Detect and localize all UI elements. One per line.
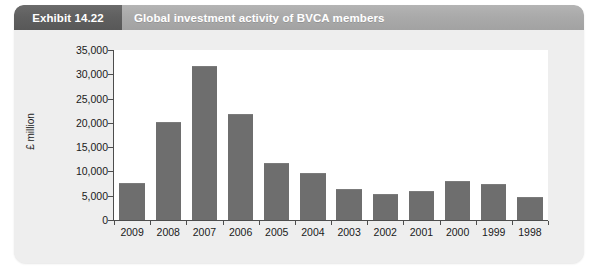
x-tick-label: 2001 (410, 226, 433, 238)
x-tick-mark (512, 221, 513, 225)
y-tick-mark (108, 50, 113, 51)
bar (264, 163, 289, 220)
bar (409, 191, 434, 220)
y-tick-label: 15,000 (76, 141, 108, 153)
y-axis-tick-labels: 05,00010,00015,00020,00025,00030,00035,0… (56, 50, 108, 220)
y-tick-label: 5,000 (82, 190, 108, 202)
exhibit-panel: Exhibit 14.22 Global investment activity… (14, 5, 584, 263)
x-axis-tick-labels: 2009200820072006200520042003200220012000… (114, 226, 548, 244)
x-tick-mark (223, 221, 224, 225)
x-tick-mark (403, 221, 404, 225)
x-tick-label: 2006 (229, 226, 252, 238)
exhibit-title: Global investment activity of BVCA membe… (122, 5, 584, 30)
x-tick-mark (150, 221, 151, 225)
x-tick-mark (331, 221, 332, 225)
chart-body: £ million 05,00010,00015,00020,00025,000… (14, 30, 584, 263)
x-tick-mark (476, 221, 477, 225)
y-axis-title: £ million (25, 96, 36, 168)
x-tick-mark (548, 221, 549, 225)
bar (228, 114, 253, 220)
x-tick-label: 2009 (120, 226, 143, 238)
bar (481, 184, 506, 220)
x-tick-mark (259, 221, 260, 225)
y-tick-label: 10,000 (76, 165, 108, 177)
exhibit-number-badge: Exhibit 14.22 (14, 5, 122, 30)
x-tick-label: 2000 (446, 226, 469, 238)
x-tick-label: 2003 (337, 226, 360, 238)
x-tick-label: 2005 (265, 226, 288, 238)
x-tick-label: 2008 (157, 226, 180, 238)
y-tick-mark (108, 74, 113, 75)
x-tick-label: 2002 (374, 226, 397, 238)
x-tick-label: 2004 (301, 226, 324, 238)
y-tick-mark (108, 196, 113, 197)
y-tick-label: 20,000 (76, 117, 108, 129)
x-tick-mark (295, 221, 296, 225)
y-tick-mark (108, 99, 113, 100)
bar (192, 66, 217, 220)
y-tick-mark (108, 171, 113, 172)
x-tick-mark (440, 221, 441, 225)
x-tick-mark (114, 221, 115, 225)
x-tick-label: 1999 (482, 226, 505, 238)
y-axis-line (113, 50, 114, 220)
bar (300, 173, 325, 220)
plot-area (114, 50, 548, 220)
x-tick-label: 1998 (518, 226, 541, 238)
bar (517, 197, 542, 220)
bar (336, 189, 361, 220)
bar (156, 122, 181, 220)
x-tick-mark (367, 221, 368, 225)
y-tick-label: 25,000 (76, 93, 108, 105)
x-tick-mark (186, 221, 187, 225)
y-tick-mark (108, 123, 113, 124)
exhibit-header: Exhibit 14.22 Global investment activity… (14, 5, 584, 30)
bar (119, 183, 144, 220)
y-tick-label: 30,000 (76, 68, 108, 80)
y-tick-label: 35,000 (76, 44, 108, 56)
exhibit-number-label: Exhibit 14.22 (32, 12, 104, 24)
bar (373, 194, 398, 220)
y-tick-mark (108, 220, 113, 221)
y-tick-mark (108, 147, 113, 148)
x-tick-label: 2007 (193, 226, 216, 238)
bar (445, 181, 470, 220)
